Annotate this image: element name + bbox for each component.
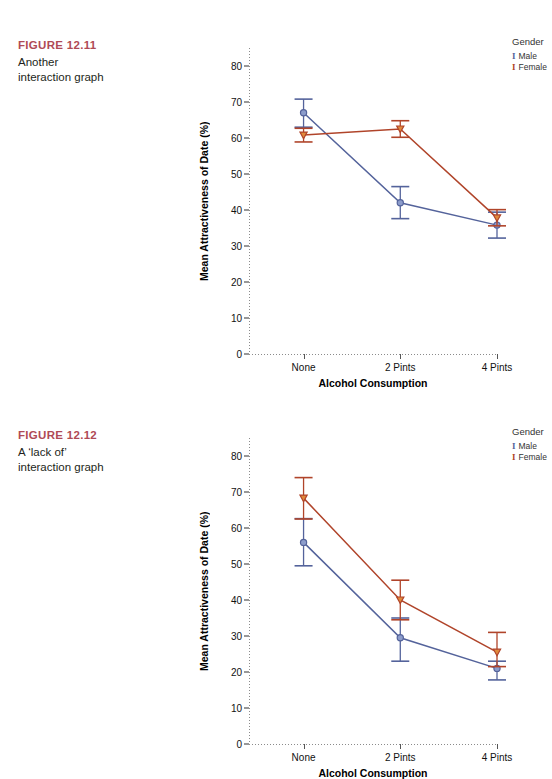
x-axis-title: Alcohol Consumption [249,377,497,389]
y-axis-tick-mark [244,708,249,709]
x-axis-tick-label: 4 Pints [482,362,513,373]
y-axis-tick-mark [244,528,249,529]
legend-title: Gender [512,426,552,437]
data-point-marker [397,597,404,604]
y-axis-tick-mark [244,174,249,175]
legend-title: Gender [512,36,552,47]
data-point-marker [397,635,403,641]
y-axis-tick-mark [244,492,249,493]
legend-item-female: I Female [512,452,552,462]
legend-item-label: Female [519,452,547,462]
figure-caption: FIGURE 12.12 A ‘lack of’ interaction gra… [18,428,178,474]
figure-caption-line-1: Another [18,55,178,70]
figure-block-12-11: FIGURE 12.11 Another interaction graph M… [0,0,552,368]
legend-item-label: Male [519,441,537,451]
x-axis-tick-mark [497,744,498,749]
chart-legend: Gender I Male I Female [512,426,552,463]
legend-item-female: I Female [512,62,552,72]
y-axis-tick-mark [244,102,249,103]
legend-item-label: Male [519,51,537,61]
y-axis-tick-mark [244,600,249,601]
x-axis-tick-label: None [292,752,316,763]
chart-plot-area: Mean Attractiveness of Date (%) 01020304… [200,412,500,757]
chart-series-layer [200,22,500,367]
figure-caption: FIGURE 12.11 Another interaction graph [18,38,178,84]
x-axis-tick-label: 2 Pints [385,362,416,373]
x-axis-tick-mark [304,744,305,749]
figure-caption-line-2: interaction graph [18,460,178,475]
legend-item-label: Female [519,62,547,72]
x-axis-tick-mark [400,744,401,749]
data-point-marker [300,539,306,545]
figure-caption-title: FIGURE 12.11 [18,38,178,53]
y-axis-tick-mark [244,636,249,637]
x-axis-tick-mark [400,354,401,359]
y-axis-tick-mark [244,672,249,673]
y-axis-tick-mark [244,210,249,211]
x-axis-tick-mark [304,354,305,359]
chart-legend: Gender I Male I Female [512,36,552,73]
x-axis-tick-mark [497,354,498,359]
figure-caption-line-2: interaction graph [18,70,178,85]
legend-item-male: I Male [512,441,552,451]
x-axis-tick-label: 4 Pints [482,752,513,763]
data-point-marker [493,649,500,656]
y-axis-tick-mark [244,744,249,745]
errorbar-key-icon: I [512,453,516,462]
errorbar-key-icon: I [512,63,516,72]
y-axis-tick-mark [244,246,249,247]
data-point-marker [397,200,403,206]
x-axis-title: Alcohol Consumption [249,767,497,779]
y-axis-tick-mark [244,318,249,319]
y-axis-tick-mark [244,138,249,139]
y-axis-tick-mark [244,354,249,355]
data-point-marker [493,215,500,222]
y-axis-tick-mark [244,456,249,457]
x-axis-tick-label: None [292,362,316,373]
x-axis-tick-label: 2 Pints [385,752,416,763]
y-axis-tick-mark [244,564,249,565]
chart-series-layer [200,412,500,757]
figure-block-12-12: FIGURE 12.12 A ‘lack of’ interaction gra… [0,390,552,758]
legend-item-male: I Male [512,51,552,61]
errorbar-key-icon: I [512,52,516,61]
errorbar-key-icon: I [512,442,516,451]
y-axis-tick-mark [244,282,249,283]
y-axis-tick-mark [244,66,249,67]
figure-caption-line-1: A ‘lack of’ [18,445,178,460]
chart-plot-area: Mean Attractiveness of Date (%) 01020304… [200,22,500,367]
data-point-marker [300,110,306,116]
figure-caption-title: FIGURE 12.12 [18,428,178,443]
